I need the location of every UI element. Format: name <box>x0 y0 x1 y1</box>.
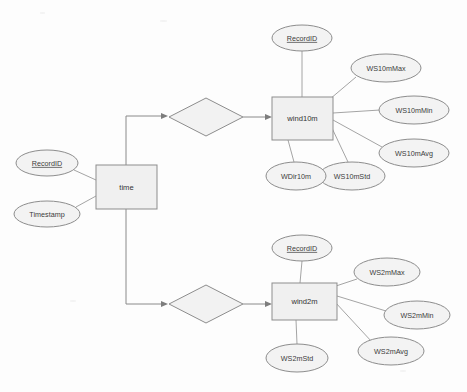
attribute-wind10m-recordid[interactable]: RecordID <box>272 25 332 51</box>
relationship-diamond-shape[interactable] <box>169 98 243 136</box>
attribute-wind10m-max[interactable]: WS10mMax <box>351 54 421 82</box>
relationship-diamond-shape[interactable] <box>169 285 243 323</box>
connector-wind10m-min <box>333 110 380 113</box>
attribute-wind2m-std[interactable]: WS2mStd <box>266 344 328 372</box>
arrow-into-wind10m <box>265 114 272 120</box>
attribute-label: WS10mAvg <box>395 149 433 158</box>
attribute-label: RecordID <box>287 244 317 253</box>
connector-wind2m-avg <box>335 302 372 342</box>
attribute-wind10m-std[interactable]: WS10mStd <box>319 162 385 190</box>
entity-wind2m[interactable]: wind2m <box>272 283 337 320</box>
connector-wind2m-std <box>296 320 297 344</box>
arrow-into-wind2m <box>265 301 272 307</box>
attribute-wind2m-max[interactable]: WS2mMax <box>354 258 420 286</box>
attribute-label: Timestamp <box>29 210 64 219</box>
er-diagram-svg: time wind10m wind2m RecordID Timestamp R… <box>0 0 467 392</box>
entity-time[interactable]: time <box>96 165 157 209</box>
connector-time-timestamp <box>76 196 96 207</box>
connector-wind2m-recordid <box>300 261 302 283</box>
relationship-rel-time-wind2m[interactable] <box>169 285 243 323</box>
attribute-label: WS2mStd <box>281 354 313 363</box>
attribute-label: WS10mMin <box>395 106 432 115</box>
attribute-time-timestamp[interactable]: Timestamp <box>14 201 80 227</box>
entity-label: wind2m <box>290 297 317 306</box>
entity-label: wind10m <box>286 114 317 123</box>
connector-time-to-rel-wind2m <box>126 209 166 304</box>
entity-wind10m[interactable]: wind10m <box>272 97 333 140</box>
connector-wind2m-min <box>337 296 386 311</box>
attribute-label: WS2mMax <box>369 268 405 277</box>
entity-label: time <box>119 183 133 192</box>
arrow-into-rel-wind10m <box>161 113 168 119</box>
attribute-wind10m-min[interactable]: WS10mMin <box>379 96 449 124</box>
connector-wind10m-std <box>331 126 348 162</box>
attribute-wind2m-min[interactable]: WS2mMin <box>384 301 450 329</box>
attribute-wind2m-recordid[interactable]: RecordID <box>272 235 332 261</box>
attribute-label: WS2mMin <box>400 311 433 320</box>
attribute-wind10m-avg[interactable]: WS10mAvg <box>379 139 449 167</box>
er-diagram-canvas: time wind10m wind2m RecordID Timestamp R… <box>0 0 467 392</box>
attribute-label: WS10mMax <box>366 64 406 73</box>
connector-time-to-rel-wind10m <box>126 116 166 165</box>
connector-wind10m-wdir <box>288 140 294 162</box>
attribute-label: WDir10m <box>281 172 311 181</box>
connector-wind10m-max <box>330 77 356 99</box>
connector-group-time-relationships <box>126 113 272 307</box>
connector-time-recordid <box>74 170 96 180</box>
connector-wind10m-avg <box>333 120 382 147</box>
attribute-time-recordid[interactable]: RecordID <box>16 150 78 176</box>
attribute-wind10m-wdir[interactable]: WDir10m <box>266 162 326 190</box>
attribute-label: WS2mAvg <box>374 347 408 356</box>
arrow-into-rel-wind2m <box>161 301 168 307</box>
attribute-label: WS10mStd <box>334 172 370 181</box>
attribute-label: RecordID <box>32 159 62 168</box>
relationship-rel-time-wind10m[interactable] <box>169 98 243 136</box>
attribute-wind2m-avg[interactable]: WS2mAvg <box>358 337 424 365</box>
attribute-label: RecordID <box>287 34 317 43</box>
